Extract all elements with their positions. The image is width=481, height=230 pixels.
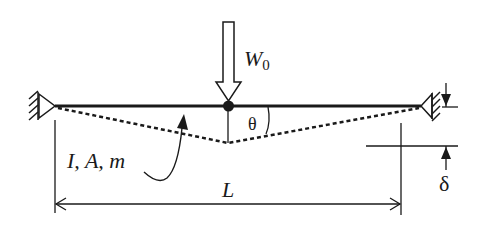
properties-label: I, A, m bbox=[67, 150, 125, 172]
load-label: W0 bbox=[244, 48, 270, 73]
deflection-label: δ bbox=[439, 173, 449, 195]
diagram-graphics bbox=[0, 0, 481, 230]
load-arrow-icon bbox=[216, 22, 241, 101]
properties-leader-arrow bbox=[144, 128, 182, 180]
load-symbol: W bbox=[244, 46, 262, 71]
left-pin-support-icon bbox=[29, 91, 55, 120]
load-subscript: 0 bbox=[262, 57, 270, 73]
angle-label: θ bbox=[248, 115, 257, 133]
deflection-dimension bbox=[366, 83, 458, 170]
deflected-shape bbox=[58, 108, 419, 143]
right-pin-support-icon bbox=[421, 92, 440, 121]
length-label: L bbox=[222, 179, 234, 201]
theta-arc bbox=[266, 107, 269, 134]
beam-diagram: W0 θ I, A, m L δ bbox=[0, 0, 481, 230]
load-point-dot bbox=[223, 101, 234, 112]
